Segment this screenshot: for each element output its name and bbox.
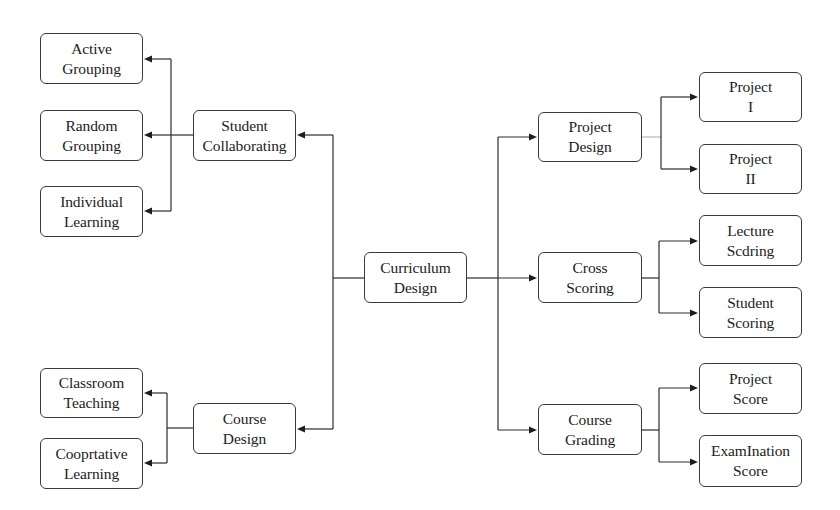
node-classroom-teaching: Classroom Teaching bbox=[40, 368, 143, 418]
arrowhead-icon bbox=[144, 56, 152, 63]
node-label-line1: Student bbox=[727, 293, 774, 313]
node-label-line2: II bbox=[745, 169, 755, 189]
node-label-line1: Active bbox=[71, 39, 112, 59]
node-cooprtative-learning: Cooprtative Learning bbox=[40, 438, 143, 489]
arrowhead-icon bbox=[690, 166, 698, 173]
node-label-line2: Learning bbox=[64, 212, 119, 232]
node-label-line2: Teaching bbox=[64, 393, 120, 413]
node-label-line2: Design bbox=[568, 137, 611, 157]
arrowhead-icon bbox=[144, 390, 152, 397]
node-label-line1: Individual bbox=[60, 192, 123, 212]
node-course-design: Course Design bbox=[193, 403, 296, 454]
node-label-line2: Learning bbox=[64, 464, 119, 484]
arrowhead-icon bbox=[690, 238, 698, 245]
node-label-line2: Grouping bbox=[62, 59, 121, 79]
node-label-line2: Score bbox=[733, 389, 768, 409]
node-label-line1: Cooprtative bbox=[55, 444, 127, 464]
node-project-1: Project I bbox=[699, 72, 802, 122]
node-label-line1: Project bbox=[729, 77, 772, 97]
node-label-line1: Cross bbox=[573, 258, 608, 278]
node-label-line2: Score bbox=[733, 461, 768, 481]
node-individual-learning: Individual Learning bbox=[40, 186, 143, 237]
node-examination-score: ExamInation Score bbox=[699, 435, 802, 487]
node-label-line2: Collaborating bbox=[203, 136, 287, 156]
node-label-line1: Classroom bbox=[59, 373, 124, 393]
node-label-line2: Scoring bbox=[727, 313, 775, 333]
node-label-line2: I bbox=[748, 97, 753, 117]
node-label-line1: Project bbox=[729, 149, 772, 169]
node-random-grouping: Random Grouping bbox=[40, 110, 143, 161]
node-label-line2: Scdring bbox=[727, 241, 775, 261]
node-label-line1: Project bbox=[568, 117, 611, 137]
arrowhead-icon bbox=[690, 310, 698, 317]
arrowhead-icon bbox=[297, 132, 305, 139]
node-label-line2: Design bbox=[223, 429, 266, 449]
curriculum-design-diagram: Curriculum Design Student Collaborating … bbox=[0, 0, 840, 510]
node-label-line1: Course bbox=[223, 409, 266, 429]
node-lecture-scoring: Lecture Scdring bbox=[699, 215, 802, 266]
node-label-line1: Random bbox=[66, 116, 118, 136]
node-active-grouping: Active Grouping bbox=[40, 33, 143, 84]
arrowhead-icon bbox=[690, 459, 698, 466]
node-project-design: Project Design bbox=[538, 112, 642, 162]
node-label-line2: Grouping bbox=[62, 136, 121, 156]
arrowhead-icon bbox=[529, 275, 537, 282]
node-label-line2: Scoring bbox=[566, 278, 614, 298]
node-label-line2: Grading bbox=[565, 430, 615, 450]
node-student-scoring: Student Scoring bbox=[699, 287, 802, 338]
arrowhead-icon bbox=[690, 385, 698, 392]
node-label-line1: Curriculum bbox=[380, 258, 450, 278]
arrowhead-icon bbox=[144, 132, 152, 139]
arrowhead-icon bbox=[297, 426, 305, 433]
node-curriculum-design: Curriculum Design bbox=[364, 252, 467, 303]
node-project-score: Project Score bbox=[699, 363, 802, 414]
arrowhead-icon bbox=[144, 208, 152, 215]
node-label-line1: ExamInation bbox=[711, 441, 790, 461]
node-cross-scoring: Cross Scoring bbox=[538, 252, 642, 303]
arrowhead-icon bbox=[529, 427, 537, 434]
node-label-line1: Project bbox=[729, 369, 772, 389]
node-label-line1: Student bbox=[221, 116, 268, 136]
arrowhead-icon bbox=[144, 460, 152, 467]
node-label-line2: Design bbox=[394, 278, 437, 298]
node-label-line1: Course bbox=[568, 410, 611, 430]
arrowhead-icon bbox=[529, 134, 537, 141]
node-student-collaborating: Student Collaborating bbox=[193, 110, 296, 161]
node-label-line1: Lecture bbox=[727, 221, 774, 241]
node-project-2: Project II bbox=[699, 144, 802, 194]
arrowhead-icon bbox=[690, 94, 698, 101]
node-course-grading: Course Grading bbox=[538, 404, 642, 455]
